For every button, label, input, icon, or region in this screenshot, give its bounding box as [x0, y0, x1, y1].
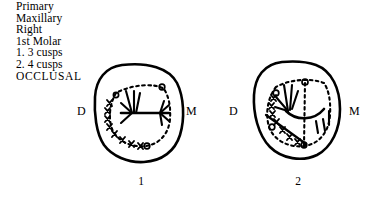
caption-line-variant-2: 2. 4 cusps: [16, 59, 82, 71]
tooth-1-mesial-label: M: [186, 104, 197, 119]
tooth-figure-2: [228, 55, 356, 173]
dental-illustration-page: Primary Maxillary Right 1st Molar 1. 3 c…: [0, 0, 375, 199]
caption-line-primary: Primary: [16, 1, 82, 13]
tooth-2-occlusal-drawing: [228, 55, 356, 173]
tooth-1-cusp-ridges: [121, 91, 169, 125]
tooth-2-distal-label: D: [229, 104, 238, 119]
tooth-1-figure-number: 1: [131, 175, 151, 187]
caption-line-view: OCCLUSAL: [16, 71, 82, 83]
tooth-2-mesial-label: M: [349, 104, 360, 119]
tooth-2-cusp-ridges: [275, 85, 329, 133]
tooth-figure-1: [76, 55, 204, 173]
tooth-2-figure-number: 2: [288, 175, 308, 187]
tooth-1-distal-label: D: [77, 104, 86, 119]
caption-block: Primary Maxillary Right 1st Molar 1. 3 c…: [16, 1, 82, 82]
tooth-1-occlusal-drawing: [76, 55, 204, 173]
tooth-2-lingual-groove-dotted: [304, 83, 305, 145]
